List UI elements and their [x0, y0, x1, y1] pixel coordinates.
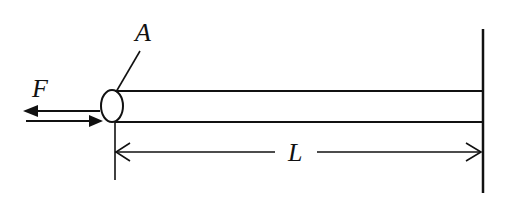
leader-line-a	[116, 51, 140, 92]
force-arrowhead-right-icon	[89, 115, 103, 127]
beam-diagram: F A L	[0, 0, 507, 200]
end-section-ellipse	[101, 90, 123, 122]
length-label: L	[287, 138, 302, 167]
force-arrowhead-left-icon	[23, 105, 38, 117]
force-label: F	[31, 74, 49, 103]
point-label: A	[133, 18, 151, 47]
